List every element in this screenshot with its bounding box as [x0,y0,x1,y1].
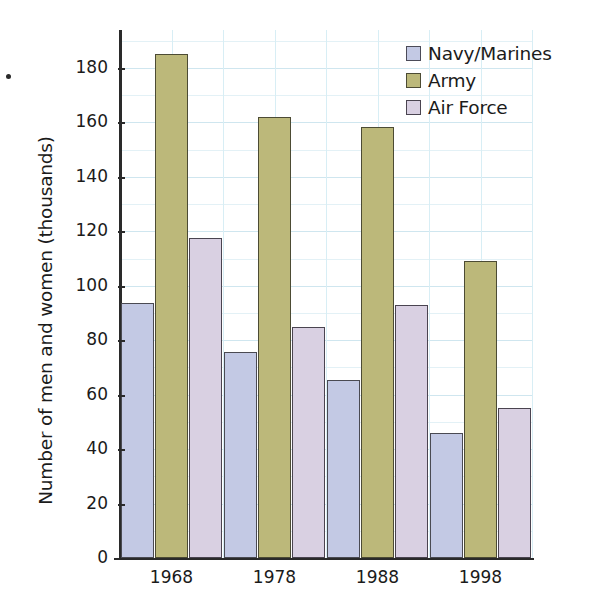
legend-label-army: Army [428,70,476,91]
y-tick-label: 40 [48,438,108,458]
bar-1968-air-force [189,238,222,558]
y-tick-mark [118,122,125,124]
legend-item-army[interactable]: Army [406,67,552,93]
bar-1998-air-force [498,408,531,558]
y-tick-mark [118,286,125,288]
x-tick-label-1978: 1978 [230,567,320,587]
page-artifact-dot [6,74,11,79]
bar-1978-navy-marines [224,352,257,558]
y-tick-label: 60 [48,384,108,404]
y-tick-label: 120 [48,220,108,240]
y-tick-label: 0 [48,547,108,567]
bar-1968-army [155,54,188,558]
legend-item-air-force[interactable]: Air Force [406,94,552,120]
x-tick-label-1988: 1988 [333,567,423,587]
bar-chart: Number of men and women (thousands) 0204… [0,0,596,613]
y-tick-mark [118,340,125,342]
bar-1988-navy-marines [327,380,360,558]
x-axis-line [114,558,534,560]
x-tick-label-1998: 1998 [436,567,526,587]
legend-swatch-icon-air-force [406,100,421,115]
legend-label-navy-marines: Navy/Marines [428,43,552,64]
bar-1998-army [464,261,497,558]
y-tick-mark [118,68,125,70]
legend-label-air-force: Air Force [428,97,508,118]
bar-1978-army [258,117,291,558]
y-tick-label: 180 [48,57,108,77]
y-tick-label: 160 [48,111,108,131]
y-tick-mark [118,231,125,233]
legend-swatch-icon-navy-marines [406,46,421,61]
y-axis-title: Number of men and women (thousands) [35,86,56,556]
y-tick-label: 20 [48,493,108,513]
bar-1968-navy-marines [121,303,154,558]
bar-1978-air-force [292,327,325,558]
y-tick-label: 140 [48,166,108,186]
bar-1988-air-force [395,305,428,558]
y-tick-mark [118,177,125,179]
y-tick-label: 80 [48,329,108,349]
bar-1988-army [361,127,394,558]
y-tick-label: 100 [48,275,108,295]
legend: Navy/Marines Army Air Force [406,40,552,121]
bar-1998-navy-marines [430,433,463,558]
y-tick-mark [118,395,125,397]
y-tick-mark [118,504,125,506]
legend-swatch-icon-army [406,73,421,88]
x-tick-label-1968: 1968 [127,567,217,587]
legend-item-navy-marines[interactable]: Navy/Marines [406,40,552,66]
y-tick-mark [118,449,125,451]
